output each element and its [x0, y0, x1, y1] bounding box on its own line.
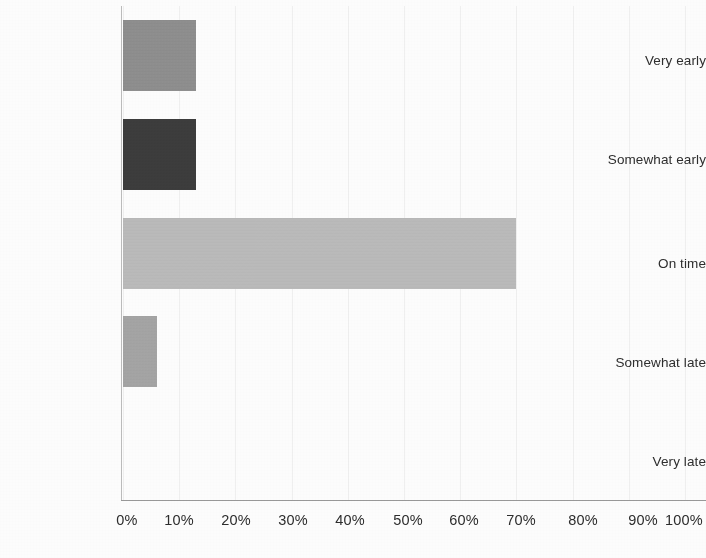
- bar-row-on-time: [122, 204, 706, 303]
- y-tick-label-very-early: Very early: [588, 53, 706, 68]
- bar-row-very-late: [122, 401, 706, 500]
- bar-somewhat-late[interactable]: [123, 316, 157, 387]
- bar-on-time[interactable]: [123, 218, 516, 289]
- bar-chart-figure: Very early Somewhat early On time Somewh…: [0, 0, 706, 558]
- x-tick-label-70: 70%: [506, 512, 536, 528]
- x-tick-label-20: 20%: [221, 512, 251, 528]
- bar-texture: [123, 316, 157, 387]
- y-tick-label-on-time: On time: [588, 256, 706, 271]
- x-tick-label-10: 10%: [164, 512, 194, 528]
- bar-very-early[interactable]: [123, 20, 196, 91]
- x-tick-label-50: 50%: [393, 512, 423, 528]
- y-tick-label-somewhat-early: Somewhat early: [588, 152, 706, 167]
- x-tick-label-60: 60%: [449, 512, 479, 528]
- x-tick-label-40: 40%: [335, 512, 365, 528]
- y-tick-label-somewhat-late: Somewhat late: [588, 355, 706, 370]
- bar-texture: [123, 218, 516, 289]
- x-tick-label-90: 90%: [628, 512, 658, 528]
- bar-texture: [123, 20, 196, 91]
- bar-row-somewhat-late: [122, 302, 706, 401]
- x-axis-line: [121, 500, 706, 501]
- plot-area: [122, 6, 706, 500]
- bar-texture: [123, 119, 196, 190]
- bar-somewhat-early[interactable]: [123, 119, 196, 190]
- x-tick-label-80: 80%: [568, 512, 598, 528]
- x-tick-label-0: 0%: [116, 512, 137, 528]
- x-tick-label-100: 100%: [665, 512, 703, 528]
- y-tick-label-very-late: Very late: [588, 454, 706, 469]
- x-tick-label-30: 30%: [278, 512, 308, 528]
